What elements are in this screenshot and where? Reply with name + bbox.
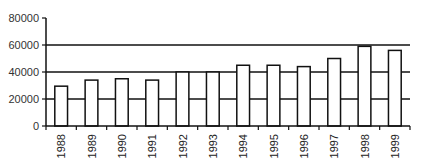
y-tick-label: 60000 [8,39,39,51]
bar-1993 [206,72,219,126]
x-tick-label: 1998 [359,134,371,158]
y-axis-tick-labels: 020000400006000080000 [8,12,39,132]
bar-1992 [176,72,189,126]
bar-1990 [115,79,128,126]
bar-1989 [85,80,98,126]
x-tick-label: 1989 [86,134,98,158]
x-tick-label: 1995 [268,134,280,158]
x-tick-label: 1992 [177,134,189,158]
x-tick-label: 1993 [207,134,219,158]
x-tick-label: 1994 [237,134,249,158]
bar-1991 [146,80,159,126]
y-tick-label: 20000 [8,93,39,105]
y-tick-label: 0 [33,120,39,132]
y-tick-label: 80000 [8,12,39,24]
x-tick-label: 1997 [328,134,340,158]
bar-1998 [358,46,371,126]
x-axis-tick-labels: 1988198919901991199219931994199519961997… [55,134,401,158]
bar-1995 [267,65,280,126]
bar-1994 [237,65,250,126]
bar-1997 [328,59,341,127]
bar-1988 [55,86,68,126]
bars [55,46,401,126]
x-tick-label: 1999 [389,134,401,158]
bar-1996 [297,67,310,126]
bar-1999 [388,50,401,126]
y-tick-label: 40000 [8,66,39,78]
x-tick-label: 1990 [116,134,128,158]
x-tick-label: 1991 [146,134,158,158]
bar-chart: 020000400006000080000 198819891990199119… [0,0,429,167]
x-tick-label: 1988 [55,134,67,158]
gridlines [46,45,410,99]
x-tick-label: 1996 [298,134,310,158]
